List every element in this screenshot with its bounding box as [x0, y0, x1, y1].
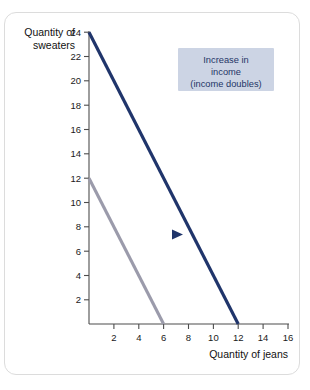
y-axis-title-line1: Quantity of — [24, 26, 75, 38]
shift-arrow-icon — [121, 230, 184, 240]
y-tick-label: 18 — [70, 100, 81, 111]
y-tick-label: 16 — [70, 124, 81, 135]
x-tick-label: 14 — [258, 332, 269, 343]
y-axis-title-line2: sweaters — [33, 39, 75, 51]
y-tick-label: 10 — [70, 197, 81, 208]
x-tick-label: 12 — [233, 332, 244, 343]
y-tick-label: 12 — [70, 173, 81, 184]
y-tick-label: 6 — [76, 246, 81, 257]
x-tick-label: 16 — [283, 332, 294, 343]
y-tick-label: 4 — [76, 270, 81, 281]
budget-constraint-chart: 24 22 20 18 16 14 12 10 8 6 4 2 2 4 6 8 … — [0, 0, 310, 390]
x-tick-label: 4 — [136, 332, 141, 343]
y-axis-title: Quantity of sweaters — [24, 26, 75, 51]
x-axis-title: Quantity of jeans — [209, 348, 288, 360]
x-axis-tick-labels: 2 4 6 8 10 12 14 16 — [111, 332, 293, 343]
x-tick-label: 2 — [111, 332, 116, 343]
x-tick-label: 8 — [186, 332, 191, 343]
x-tick-label: 10 — [208, 332, 219, 343]
x-tick-label: 6 — [161, 332, 166, 343]
income-increase-callout: Increase in income (income doubles) — [178, 48, 274, 91]
y-tick-label: 20 — [70, 75, 81, 86]
callout-line-1: Increase in — [203, 55, 248, 65]
budget-line-original — [89, 178, 164, 324]
y-tick-label: 8 — [76, 221, 81, 232]
y-tick-label: 2 — [76, 294, 81, 305]
y-tick-label: 14 — [70, 148, 81, 159]
x-axis-ticks — [114, 324, 288, 329]
callout-line-3: (income doubles) — [190, 79, 261, 89]
y-axis-ticks — [84, 32, 89, 300]
y-tick-label: 22 — [70, 51, 81, 62]
y-axis-tick-labels: 24 22 20 18 16 14 12 10 8 6 4 2 — [70, 27, 81, 306]
callout-line-2: income — [211, 67, 241, 77]
